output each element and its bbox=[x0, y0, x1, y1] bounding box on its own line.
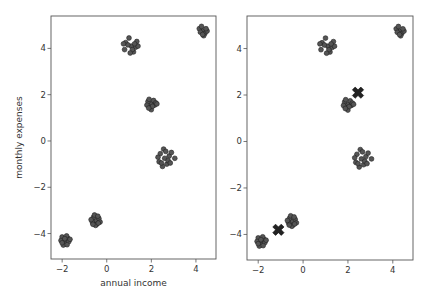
data-point bbox=[146, 106, 151, 111]
centroid-x-marker bbox=[350, 84, 367, 101]
x-tick-label: −2 bbox=[252, 265, 265, 275]
data-points bbox=[255, 24, 407, 248]
data-point bbox=[89, 217, 94, 222]
data-point bbox=[121, 41, 126, 46]
data-point bbox=[343, 97, 348, 102]
data-point bbox=[200, 32, 205, 37]
data-point bbox=[287, 223, 292, 228]
data-point bbox=[168, 161, 173, 166]
data-point bbox=[324, 51, 329, 56]
data-point bbox=[323, 36, 328, 41]
x-tick-label: 0 bbox=[104, 264, 109, 274]
y-tick-label: 0 bbox=[237, 136, 242, 146]
y-tick-label: 4 bbox=[41, 43, 46, 53]
data-point bbox=[261, 243, 266, 248]
data-point bbox=[397, 32, 402, 37]
data-point bbox=[128, 51, 133, 56]
right-scatter-panel: −2024−4−2024 bbox=[229, 16, 413, 275]
data-point bbox=[155, 102, 160, 107]
data-point bbox=[172, 156, 177, 161]
data-point bbox=[199, 24, 204, 29]
data-point bbox=[343, 106, 348, 111]
x-tick-label: 2 bbox=[345, 265, 350, 275]
data-point bbox=[285, 218, 290, 223]
x-axis-label: annual income bbox=[100, 278, 167, 288]
y-tick-label: −2 bbox=[229, 183, 242, 193]
data-point bbox=[169, 150, 174, 155]
data-point bbox=[147, 97, 152, 102]
data-point bbox=[159, 161, 164, 166]
x-tick-label: −2 bbox=[56, 264, 69, 274]
y-tick-label: −4 bbox=[229, 229, 242, 239]
data-point bbox=[351, 102, 356, 107]
data-point bbox=[60, 240, 65, 245]
y-tick-label: −2 bbox=[33, 182, 46, 192]
scatter-chart: −2024−4−2024annual incomemonthly expense… bbox=[0, 0, 429, 300]
centroid-x-marker bbox=[270, 221, 287, 238]
y-tick-label: 2 bbox=[41, 90, 46, 100]
data-points bbox=[59, 24, 210, 248]
data-point bbox=[401, 26, 406, 31]
data-point bbox=[68, 237, 73, 242]
data-point bbox=[319, 47, 324, 52]
data-point bbox=[156, 155, 161, 160]
data-point bbox=[127, 36, 132, 41]
data-point bbox=[65, 242, 70, 247]
data-point bbox=[369, 157, 374, 162]
x-tick-label: 2 bbox=[149, 264, 154, 274]
data-point bbox=[318, 42, 323, 47]
data-point bbox=[366, 151, 371, 156]
data-point bbox=[365, 161, 370, 166]
data-point bbox=[132, 41, 137, 46]
x-tick-label: 4 bbox=[193, 264, 198, 274]
y-tick-label: 0 bbox=[41, 136, 46, 146]
data-point bbox=[62, 236, 67, 241]
data-point bbox=[122, 47, 127, 52]
data-point bbox=[96, 221, 101, 226]
x-tick-label: 0 bbox=[300, 265, 305, 275]
left-scatter-panel: −2024−4−2024annual incomemonthly expense… bbox=[14, 16, 216, 288]
data-point bbox=[396, 24, 401, 29]
data-point bbox=[259, 237, 264, 242]
data-point bbox=[264, 238, 269, 243]
data-point bbox=[163, 149, 168, 154]
data-point bbox=[329, 42, 334, 47]
x-tick-label: 4 bbox=[390, 265, 395, 275]
data-point bbox=[322, 43, 327, 48]
data-point bbox=[95, 214, 100, 219]
y-axis-label: monthly expenses bbox=[14, 96, 24, 179]
data-point bbox=[352, 155, 357, 160]
y-tick-label: 2 bbox=[237, 90, 242, 100]
data-point bbox=[292, 222, 297, 227]
data-point bbox=[292, 215, 297, 220]
data-point bbox=[360, 150, 365, 155]
data-point bbox=[356, 161, 361, 166]
y-tick-label: −4 bbox=[33, 229, 46, 239]
data-point bbox=[204, 26, 209, 31]
data-point bbox=[126, 43, 131, 48]
y-tick-label: 4 bbox=[237, 44, 242, 54]
data-point bbox=[91, 222, 96, 227]
